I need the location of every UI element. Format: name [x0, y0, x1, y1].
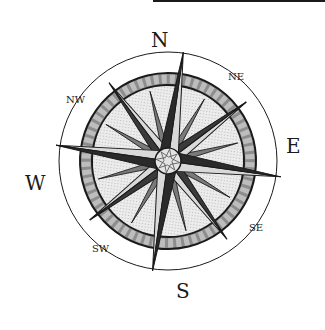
label-northeast: NE	[228, 71, 244, 82]
label-south: S	[176, 279, 190, 303]
label-north: N	[151, 28, 169, 52]
label-northwest: NW	[66, 94, 86, 105]
label-west: W	[25, 171, 46, 195]
label-southeast: SE	[249, 222, 263, 233]
label-southwest: SW	[92, 243, 110, 254]
compass-rose-icon: N E S W NE SE SW NW	[0, 0, 325, 330]
label-east: E	[286, 134, 301, 158]
